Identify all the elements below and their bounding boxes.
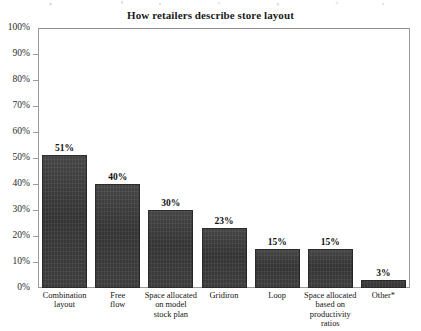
y-axis-label: 20% bbox=[0, 231, 30, 240]
y-axis-label: 30% bbox=[0, 205, 30, 214]
bar-group[interactable]: 40% bbox=[95, 28, 140, 288]
bar[interactable] bbox=[202, 228, 247, 288]
x-axis-category-line: based on bbox=[299, 300, 362, 309]
x-axis-category-line: Other* bbox=[352, 291, 415, 300]
bar[interactable] bbox=[255, 249, 300, 288]
bar-group[interactable]: 15% bbox=[308, 28, 353, 288]
x-axis-category-line: productivity bbox=[299, 310, 362, 319]
bar-value-label: 40% bbox=[83, 172, 152, 182]
bar[interactable] bbox=[42, 155, 87, 288]
y-axis-label: 70% bbox=[0, 101, 30, 110]
bar-group[interactable]: 15% bbox=[255, 28, 300, 288]
bars-layer: 51%40%30%23%15%15%3% bbox=[38, 28, 410, 288]
y-axis-label: 50% bbox=[0, 153, 30, 162]
x-axis-category-line: ratios bbox=[299, 319, 362, 328]
bar-chart: How retailers describe store layout 100%… bbox=[0, 0, 421, 331]
bar-value-label: 15% bbox=[296, 237, 365, 247]
x-axis-category-label: Other* bbox=[352, 291, 415, 300]
bar-group[interactable]: 23% bbox=[202, 28, 247, 288]
y-axis-label: 80% bbox=[0, 75, 30, 84]
y-axis-label: 60% bbox=[0, 127, 30, 136]
y-axis-label: 40% bbox=[0, 179, 30, 188]
bar[interactable] bbox=[148, 210, 193, 288]
bar-group[interactable]: 3% bbox=[361, 28, 406, 288]
bar-group[interactable]: 30% bbox=[148, 28, 193, 288]
bar-value-label: 23% bbox=[190, 216, 259, 226]
bar-value-label: 51% bbox=[30, 143, 99, 153]
bar[interactable] bbox=[308, 249, 353, 288]
x-axis-category-line: stock plan bbox=[139, 310, 202, 319]
bar-value-label: 3% bbox=[349, 268, 418, 278]
bar[interactable] bbox=[95, 184, 140, 288]
bar-value-label: 30% bbox=[136, 198, 205, 208]
y-axis-label: 100% bbox=[0, 23, 30, 32]
y-axis-label: 10% bbox=[0, 257, 30, 266]
x-axis-labels: CombinationlayoutFreeflowSpace allocated… bbox=[38, 291, 410, 331]
bar[interactable] bbox=[361, 280, 406, 288]
bar-group[interactable]: 51% bbox=[42, 28, 87, 288]
y-axis-label: 90% bbox=[0, 49, 30, 58]
chart-title: How retailers describe store layout bbox=[0, 9, 421, 21]
y-axis-label: 0% bbox=[0, 283, 30, 292]
x-axis-category-line: on model bbox=[139, 300, 202, 309]
